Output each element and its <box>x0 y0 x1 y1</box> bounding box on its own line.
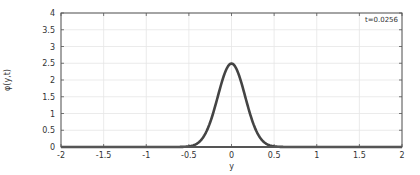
x-tick-labels: -2-1.5-1-0.500.511.52 <box>57 151 405 160</box>
y-tick-labels: 00.511.522.533.54 <box>42 9 55 152</box>
x-tick-label: -2 <box>57 151 65 160</box>
x-tick-label: 0.5 <box>268 151 281 160</box>
chart: -2-1.5-1-0.500.511.52 00.511.522.533.54 … <box>0 0 420 175</box>
x-tick-label: 1.5 <box>353 151 366 160</box>
x-tick-label: 0 <box>229 151 234 160</box>
x-tick-label: -1 <box>142 151 150 160</box>
time-annotation: t=0.0256 <box>365 16 399 24</box>
y-tick-label: 3 <box>50 43 55 52</box>
x-axis-label: y <box>229 162 234 171</box>
y-tick-label: 3.5 <box>42 26 55 35</box>
y-tick-label: 2 <box>50 76 55 85</box>
x-tick-label: 1 <box>314 151 319 160</box>
y-tick-label: 1 <box>50 110 55 119</box>
y-tick-label: 4 <box>50 9 55 18</box>
x-tick-label: -1.5 <box>96 151 112 160</box>
x-tick-label: -0.5 <box>181 151 197 160</box>
x-tick-label: 2 <box>399 151 404 160</box>
y-axis-label: φ(y,t) <box>3 69 12 91</box>
y-tick-label: 0 <box>50 143 55 152</box>
y-tick-label: 2.5 <box>42 59 55 68</box>
y-tick-label: 0.5 <box>42 126 55 135</box>
grid-lines <box>61 13 402 147</box>
y-tick-label: 1.5 <box>42 93 55 102</box>
